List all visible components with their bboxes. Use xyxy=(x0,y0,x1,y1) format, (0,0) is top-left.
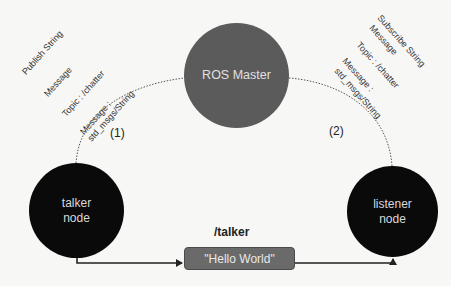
step-1-label: (1) xyxy=(110,126,125,140)
ros-master-node: ROS Master xyxy=(184,23,289,128)
step-2-label: (2) xyxy=(329,124,344,138)
message-box: "Hello World" xyxy=(184,247,295,270)
ros-master-label: ROS Master xyxy=(202,68,271,83)
registration-link-2 xyxy=(289,78,392,166)
talker-label-line2: node xyxy=(62,211,91,226)
publish-arrow xyxy=(77,256,182,263)
talker-label-line1: talker xyxy=(62,196,91,211)
listener-label-line1: listener xyxy=(373,197,412,212)
subscribe-arrow xyxy=(295,259,393,263)
talker-node: talker node xyxy=(29,163,124,258)
message-text: "Hello World" xyxy=(204,252,274,266)
listener-label-line2: node xyxy=(373,212,412,227)
listener-node: listener node xyxy=(347,166,438,257)
topic-label: /talker xyxy=(214,225,249,239)
